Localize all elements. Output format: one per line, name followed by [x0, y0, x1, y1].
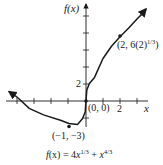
function-curve	[16, 10, 146, 125]
point-right	[118, 34, 122, 38]
point-right-label-base: (2, 6(2)	[117, 39, 147, 50]
point-right-label-close: )	[155, 39, 158, 50]
x-axis-label: x	[144, 103, 149, 114]
point-right-label: (2, 6(2)1/3)	[117, 40, 159, 50]
function-caption: f(x) = 4x1/3 + x4/3	[46, 150, 112, 160]
caption-plus: +	[89, 149, 100, 160]
point-origin-label: (0, 0)	[88, 103, 110, 113]
point-min-label: (−1, −3)	[52, 131, 85, 141]
y-tick-label-2: 2	[76, 79, 81, 89]
caption-exp2: 4/3	[104, 148, 112, 155]
point-min	[67, 125, 71, 129]
caption-exp1: 1/3	[81, 148, 89, 155]
caption-mid: (x) = 4	[49, 149, 76, 160]
curve-left-arrow	[9, 92, 16, 97]
x-tick-label-2: 2	[117, 104, 122, 114]
curve-right-arrow	[141, 9, 146, 15]
y-axis-label: f(x)	[64, 3, 79, 14]
